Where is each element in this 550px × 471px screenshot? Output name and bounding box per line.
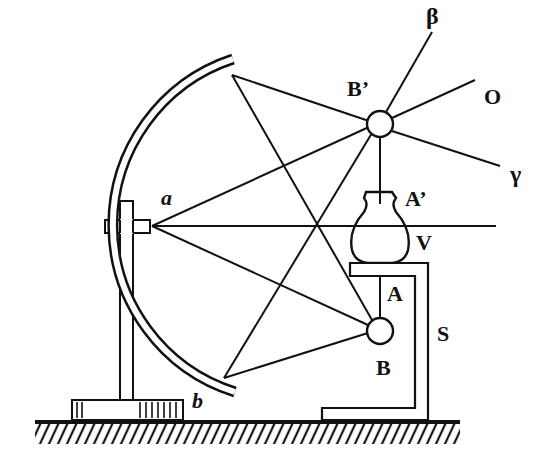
label-a: A — [387, 283, 403, 305]
label-gamma: γ — [510, 162, 521, 186]
ground — [35, 420, 460, 444]
label-s: S — [437, 323, 449, 345]
mirror-diagram — [0, 0, 550, 471]
label-mirror-a: a — [161, 187, 172, 209]
stand-base — [72, 400, 183, 420]
mirror-stand — [72, 201, 183, 420]
vase — [351, 192, 409, 263]
label-a-prime: A’ — [405, 188, 427, 210]
label-b: B — [376, 357, 391, 379]
label-mirror-b: b — [192, 390, 203, 412]
label-o: O — [484, 86, 501, 108]
image-bulb-b-prime — [367, 111, 393, 194]
label-v: V — [416, 232, 432, 254]
label-beta: β — [426, 4, 439, 28]
label-b-prime: B’ — [347, 78, 369, 100]
